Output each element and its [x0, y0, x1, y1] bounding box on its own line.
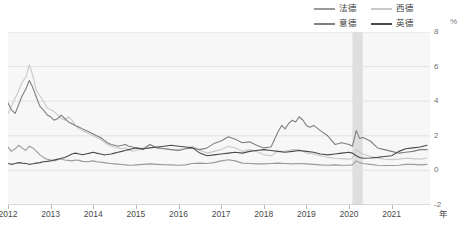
legend-item-yingde[interactable]: 英德: [371, 19, 414, 28]
legend-item-xide[interactable]: 西德: [371, 4, 414, 13]
x-tick-label-2021: 2021: [369, 210, 415, 219]
x-axis-unit-label: 年: [439, 210, 448, 219]
x-tick-mark-2019: [306, 205, 307, 209]
x-tick-label-2019: 2019: [283, 210, 329, 219]
y-tick-label-4: 4: [434, 97, 456, 105]
shaded-band-0: [352, 32, 362, 205]
x-tick-mark-2015: [136, 205, 137, 209]
legend-swatch-fade: [314, 8, 335, 10]
legend-row-1: 法德 西德: [314, 1, 461, 16]
y-tick-label-6: 6: [434, 63, 456, 71]
legend-swatch-yide: [314, 23, 335, 25]
legend-label-xide: 西德: [396, 4, 414, 13]
chart-legend: 法德 西德 意德 英德 %: [314, 1, 461, 31]
chart-canvas: [8, 32, 430, 205]
y-axis-unit-label: %: [450, 17, 457, 26]
x-tick-mark-2018: [264, 205, 265, 209]
x-tick-label-2016: 2016: [156, 210, 202, 219]
x-tick-label-2020: 2020: [326, 210, 372, 219]
x-tick-label-2015: 2015: [113, 210, 159, 219]
x-tick-mark-2014: [93, 205, 94, 209]
y-tick-label--2: -2: [434, 201, 456, 209]
x-tick-label-2018: 2018: [241, 210, 287, 219]
y-tick-label-0: 0: [434, 166, 456, 174]
legend-label-fade: 法德: [339, 4, 357, 13]
x-tick-mark-2016: [179, 205, 180, 209]
x-tick-label-2012: 2012: [0, 210, 31, 219]
x-tick-mark-2021: [392, 205, 393, 209]
x-tick-label-2013: 2013: [28, 210, 74, 219]
legend-swatch-yingde: [371, 23, 392, 25]
legend-swatch-xide: [371, 8, 392, 10]
legend-label-yingde: 英德: [396, 19, 414, 28]
x-tick-mark-2013: [51, 205, 52, 209]
plot-area: [8, 32, 430, 205]
x-tick-mark-2020: [349, 205, 350, 209]
y-tick-label-8: 8: [434, 28, 456, 36]
y-tick-label-2: 2: [434, 132, 456, 140]
legend-item-yide[interactable]: 意德: [314, 19, 357, 28]
legend-label-yide: 意德: [339, 19, 357, 28]
x-tick-label-2017: 2017: [198, 210, 244, 219]
x-tick-mark-2017: [221, 205, 222, 209]
chart-root: 法德 西德 意德 英德 % 86420-2 201220132014201520…: [0, 0, 461, 232]
legend-item-fade[interactable]: 法德: [314, 4, 357, 13]
x-tick-mark-2012: [8, 205, 9, 209]
x-tick-label-2014: 2014: [70, 210, 116, 219]
plot-background: [8, 32, 430, 205]
